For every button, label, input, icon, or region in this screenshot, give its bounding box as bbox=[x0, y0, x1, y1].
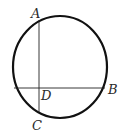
circle bbox=[13, 16, 107, 118]
label-d: D bbox=[40, 88, 52, 103]
geometry-diagram: A B C D bbox=[0, 0, 121, 132]
label-a: A bbox=[30, 6, 40, 21]
label-c: C bbox=[32, 118, 42, 132]
label-b: B bbox=[107, 82, 118, 97]
